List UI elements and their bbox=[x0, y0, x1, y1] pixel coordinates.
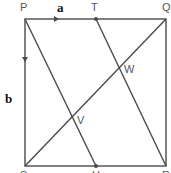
segment-tr bbox=[96, 19, 166, 166]
point-u-dot bbox=[94, 164, 98, 168]
label-w: W bbox=[124, 63, 135, 75]
geometry-diagram: P Q R S T U V W a b bbox=[0, 0, 171, 173]
label-q: Q bbox=[162, 1, 171, 13]
label-u: U bbox=[92, 169, 100, 173]
label-t: T bbox=[91, 1, 98, 13]
label-v: V bbox=[77, 114, 85, 126]
label-r: R bbox=[162, 169, 170, 173]
label-s: S bbox=[20, 169, 27, 173]
arrow-b-icon bbox=[22, 57, 28, 62]
segment-pu bbox=[25, 19, 96, 166]
diagonal-sq bbox=[25, 19, 166, 166]
point-t-dot bbox=[94, 17, 98, 21]
vector-label-a: a bbox=[57, 0, 64, 15]
vector-label-b: b bbox=[5, 91, 12, 106]
arrow-a-icon bbox=[54, 16, 59, 22]
label-p: P bbox=[20, 1, 27, 13]
